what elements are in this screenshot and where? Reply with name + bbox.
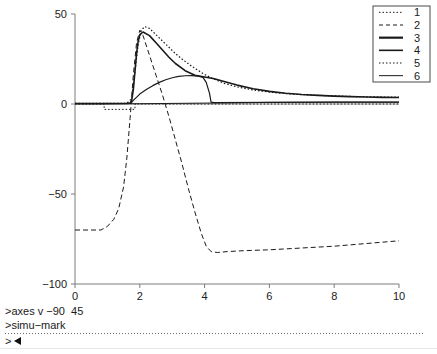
series-group [75,27,399,253]
y-tick-label-0: 50 [55,8,67,20]
axes-group: 500−50−1000246810 [42,8,405,300]
legend-box [373,6,430,82]
terminal-prompt: > [5,335,11,347]
series-line-3 [75,32,399,103]
legend-label-6: 6 [414,70,420,82]
x-tick-label-5: 10 [393,290,405,300]
terminal-input-line[interactable]: > [0,335,21,348]
series-line-2 [75,30,399,252]
plot-window: 500−50−1000246810123456 >axes v −90 45 >… [0,0,437,354]
terminal-command-line-1: >axes v −90 45 [0,305,83,318]
chart-svg: 500−50−1000246810123456 [0,0,437,300]
legend-label-2: 2 [414,19,420,31]
terminal-cursor-icon [14,337,21,345]
y-tick-label-3: −100 [42,278,67,290]
y-tick-label-2: −50 [48,188,67,200]
x-tick-label-2: 4 [202,290,208,300]
series-line-1 [75,104,399,109]
x-tick-label-0: 0 [72,290,78,300]
legend-label-4: 4 [414,44,420,56]
terminal-command-line-2: >simu−mark [0,319,66,332]
legend-label-1: 1 [414,6,420,18]
terminal-divider [5,333,425,334]
plot-area: 500−50−1000246810123456 [0,0,437,300]
terminal-panel[interactable]: >axes v −90 45 >simu−mark > [0,300,437,354]
series-line-5 [75,27,399,104]
legend-label-5: 5 [414,57,420,69]
x-tick-label-3: 6 [266,290,272,300]
legend: 123456 [373,6,430,82]
legend-label-3: 3 [414,32,420,44]
x-tick-label-1: 2 [137,290,143,300]
y-tick-label-1: 0 [61,98,67,110]
x-tick-label-4: 8 [331,290,337,300]
terminal-bottom-rule [0,348,437,349]
series-line-4 [75,76,399,104]
